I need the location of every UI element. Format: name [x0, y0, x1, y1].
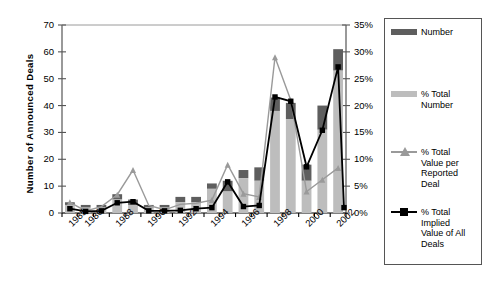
legend-label-iv-line4: Deals	[421, 239, 483, 250]
y-axis-left-tick: 20	[28, 153, 54, 164]
y-axis-right-tick: 25%	[354, 73, 384, 84]
legend-swatch-percent-total-number-icon	[391, 91, 417, 97]
y-axis-right-tick: 5%	[354, 180, 384, 191]
legend-label-vpd-line1: % Total	[421, 147, 483, 158]
y-axis-left-tick: 40	[28, 100, 54, 111]
y-axis-right-tick: 30%	[354, 46, 384, 57]
legend-label-percent-total-number-line1: % Total	[421, 89, 483, 100]
legend-label-number: Number	[421, 27, 483, 38]
legend-label-vpd-line2: Value per	[421, 158, 483, 169]
legend-label-iv-line1: % Total	[421, 207, 483, 218]
legend-label-vpd-line3: Reported	[421, 168, 483, 179]
y-axis-right-tick: 10%	[354, 153, 384, 164]
y-axis-left-tick: 30	[28, 126, 54, 137]
y-axis-right-tick: 35%	[354, 19, 384, 30]
y-axis-left-tick: 10	[28, 180, 54, 191]
chart-legend: Number % Total Number % Total Value per …	[384, 18, 482, 265]
legend-triangle-marker-icon	[400, 147, 410, 156]
y-axis-right-tick: 15%	[354, 126, 384, 137]
y-axis-left-tick: 50	[28, 73, 54, 84]
legend-label-vpd-line4: Deal	[421, 179, 483, 190]
legend-label-iv-line2: Implied	[421, 218, 483, 229]
legend-square-marker-icon	[400, 208, 408, 216]
y-axis-left-tick: 0	[28, 207, 54, 218]
y-axis-left-tick: 60	[28, 46, 54, 57]
y-axis-right-tick: 20%	[354, 100, 384, 111]
legend-label-iv-line3: Value of All	[421, 228, 483, 239]
legend-swatch-number-icon	[391, 29, 417, 35]
chart-container: Number of Announced Deals Percent of 198…	[0, 0, 490, 282]
y-axis-right-tick: 0%	[354, 207, 384, 218]
legend-label-percent-total-number-line2: Number	[421, 100, 483, 111]
y-axis-left-tick: 70	[28, 19, 54, 30]
